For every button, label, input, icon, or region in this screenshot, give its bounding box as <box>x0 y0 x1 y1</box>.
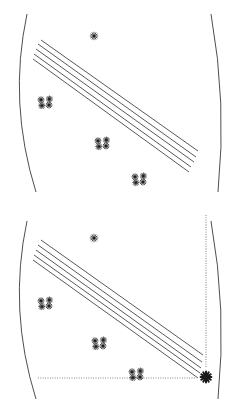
right-boundary-arc <box>211 14 221 192</box>
diagonal-line-bundle <box>33 240 203 378</box>
star-cluster-lower-star-2 <box>137 368 144 375</box>
star-cluster-lower-star-1 <box>132 173 139 180</box>
star-cluster-mid-star-1 <box>92 337 99 344</box>
star-cluster-lower-star-1 <box>129 368 136 375</box>
star-cluster-left-star-3 <box>38 303 45 310</box>
diagonal-line-bundle-line-2 <box>38 44 196 157</box>
star-cluster-lower-star-4 <box>137 374 144 381</box>
star-cluster-mid-star-2 <box>100 337 107 344</box>
diagonal-line-bundle-line-2 <box>38 245 202 362</box>
diagonal-line-bundle <box>33 40 198 172</box>
star-cluster-mid-star-3 <box>95 143 102 150</box>
star-cluster-lower <box>129 368 144 382</box>
star-cluster-mid <box>92 337 107 351</box>
bottom-panel <box>0 207 245 413</box>
star-cluster-left-star-4 <box>46 303 53 310</box>
star-cluster-left <box>38 96 53 110</box>
diagonal-line-bundle-line-1 <box>41 240 203 355</box>
star-cluster-left-star-2 <box>46 297 53 304</box>
star-cluster-mid <box>95 137 110 151</box>
star-cluster-left <box>38 297 53 311</box>
top-panel <box>0 0 245 207</box>
diagonal-line-bundle-line-1 <box>41 40 198 151</box>
star-cluster-mid-star-2 <box>103 137 110 144</box>
figure-root <box>0 0 245 413</box>
star-cluster-left-star-3 <box>38 102 45 109</box>
asterisk-origin-marker <box>201 372 212 383</box>
left-boundary-arc <box>19 221 36 399</box>
left-boundary-arc <box>19 14 36 192</box>
diagonal-line-bundle-line-4 <box>34 54 191 167</box>
star-single-top <box>90 234 98 242</box>
right-boundary-arc <box>211 221 221 399</box>
star-cluster-mid-star-4 <box>103 143 110 150</box>
star-cluster-lower-star-2 <box>140 173 147 180</box>
star-cluster-lower-star-3 <box>132 179 139 186</box>
diagonal-line-bundle-line-5 <box>33 59 189 172</box>
star-cluster-left-star-1 <box>38 96 45 103</box>
top-panel-canvas <box>0 0 245 207</box>
star-cluster-mid-star-4 <box>100 343 107 350</box>
star-cluster-left-star-4 <box>46 102 53 109</box>
star-cluster-left-star-2 <box>46 96 53 103</box>
diagonal-line-bundle-line-3 <box>36 250 201 368</box>
star-single-top <box>90 32 98 40</box>
bottom-panel-canvas <box>0 207 245 413</box>
diagonal-line-bundle-line-3 <box>36 49 194 162</box>
star-cluster-mid-star-1 <box>95 137 102 144</box>
star-cluster-lower-star-4 <box>140 179 147 186</box>
star-cluster-left-star-1 <box>38 297 45 304</box>
star-cluster-lower <box>132 173 147 187</box>
star-cluster-lower-star-3 <box>129 374 136 381</box>
diagonal-line-bundle-line-4 <box>34 255 200 373</box>
star-cluster-mid-star-3 <box>92 343 99 350</box>
diagonal-line-bundle-line-5 <box>33 260 198 378</box>
